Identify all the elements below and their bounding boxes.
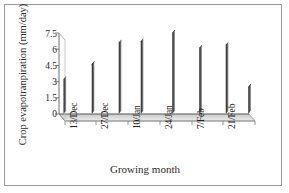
spike-1 xyxy=(63,76,66,114)
plot-svg xyxy=(5,5,283,187)
x-tick-label-21-feb: 21/Feb xyxy=(227,104,237,129)
figure-frame: Crop evapotranpiration (mm/day) 7.5 6 4.… xyxy=(4,4,282,186)
spike-2 xyxy=(92,61,95,114)
x-tick-label-10-jan: 10/Jan xyxy=(132,105,142,129)
spike-5 xyxy=(172,30,175,114)
spike-4 xyxy=(141,38,144,114)
x-tick-label-27-dec: 27/Dec xyxy=(100,103,110,129)
chart-area: Crop evapotranpiration (mm/day) 7.5 6 4.… xyxy=(5,5,283,187)
x-axis-title: Growing month xyxy=(45,163,245,175)
axis-floor xyxy=(59,114,255,121)
spike-3 xyxy=(119,40,122,115)
spike-8 xyxy=(248,84,251,114)
x-tick-label-24-jan: 24/Jan xyxy=(164,105,174,129)
x-tick-label-13-dec: 13/Dec xyxy=(69,103,79,129)
data-spikes xyxy=(63,30,251,114)
spike-6 xyxy=(199,45,202,114)
x-tick-label-7-feb: 7/Feb xyxy=(196,108,206,129)
